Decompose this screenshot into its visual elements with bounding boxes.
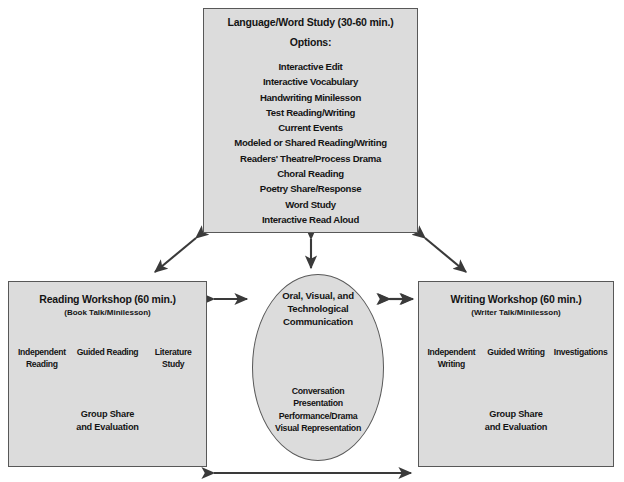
option-current-events: Current Events (204, 120, 417, 135)
ellipse-item-performance-drama: Performance/Drama (253, 410, 383, 422)
option-handwriting-minilesson: Handwriting Minilesson (204, 90, 417, 105)
option-interactive-edit: Interactive Edit (204, 59, 417, 74)
arrow-top-to-right (425, 238, 466, 272)
writing-group-share-and-evaluation: Group Shareand Evaluation (419, 408, 613, 433)
reading-group-share-and-evaluation: Group Shareand Evaluation (9, 408, 206, 433)
writing-workshop-box[interactable]: Writing Workshop (60 min.) (Writer Talk/… (418, 281, 614, 467)
diagram-canvas: Language/Word Study (30-60 min.) Options… (0, 0, 624, 482)
ellipse-items-list: Conversation Presentation Performance/Dr… (253, 385, 383, 435)
top-box-title: Language/Word Study (30-60 min.) (204, 16, 417, 29)
ellipse-title: Oral, Visual, andTechnologicalCommunicat… (253, 289, 383, 328)
top-box-options-list: Interactive Edit Interactive Vocabulary … (204, 59, 417, 227)
option-modeled-shared-reading-writing: Modeled or Shared Reading/Writing (204, 135, 417, 150)
branch-independent-writing: IndependentWriting (419, 347, 483, 370)
writing-workshop-subtitle: (Writer Talk/Minilesson) (419, 308, 613, 317)
top-box-subtitle: Options: (204, 36, 417, 49)
branch-literature-study: LiteratureStudy (141, 347, 206, 370)
reading-workshop-branches: IndependentReading Guided Reading Litera… (9, 347, 206, 370)
reading-workshop-title: Reading Workshop (60 min.) (9, 293, 206, 305)
branch-investigations: Investigations (549, 347, 613, 359)
branch-guided-reading: Guided Reading (75, 347, 140, 359)
oral-visual-technological-communication-ellipse[interactable]: Oral, Visual, andTechnologicalCommunicat… (252, 274, 384, 461)
language-word-study-box[interactable]: Language/Word Study (30-60 min.) Options… (203, 8, 418, 233)
ellipse-item-visual-representation: Visual Representation (253, 422, 383, 434)
option-test-reading-writing: Test Reading/Writing (204, 105, 417, 120)
option-word-study: Word Study (204, 197, 417, 212)
branch-guided-writing: Guided Writing (484, 347, 548, 359)
ellipse-item-presentation: Presentation (253, 397, 383, 409)
arrow-top-to-left (155, 238, 196, 272)
ellipse-item-conversation: Conversation (253, 385, 383, 397)
reading-workshop-subtitle: (Book Talk/Minilesson) (9, 308, 206, 317)
option-readers-theatre-process-drama: Readers' Theatre/Process Drama (204, 151, 417, 166)
option-interactive-read-aloud: Interactive Read Aloud (204, 212, 417, 227)
option-interactive-vocabulary: Interactive Vocabulary (204, 74, 417, 89)
writing-workshop-title: Writing Workshop (60 min.) (419, 293, 613, 305)
option-choral-reading: Choral Reading (204, 166, 417, 181)
option-poetry-share-response: Poetry Share/Response (204, 181, 417, 196)
reading-workshop-box[interactable]: Reading Workshop (60 min.) (Book Talk/Mi… (8, 281, 207, 467)
branch-independent-reading: IndependentReading (9, 347, 74, 370)
writing-workshop-branches: IndependentWriting Guided Writing Invest… (419, 347, 613, 370)
